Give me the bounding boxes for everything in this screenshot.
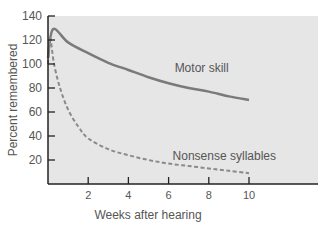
y-tick-label: 100 (22, 57, 42, 71)
x-tick-label: 10 (243, 189, 255, 201)
y-tick-label: 20 (29, 153, 43, 167)
x-tick-label: 6 (166, 189, 172, 201)
x-tick-label: 8 (206, 189, 212, 201)
nonsense-syllables-label: Nonsense syllables (173, 149, 276, 163)
y-tick-label: 120 (22, 33, 42, 47)
y-tick-label: 40 (29, 129, 43, 143)
y-tick-label: 80 (29, 81, 43, 95)
y-axis-label: Percent remembered (6, 44, 20, 157)
x-tick-label: 4 (125, 189, 131, 201)
x-tick-label: 2 (85, 189, 91, 201)
motor-skill-label: Motor skill (175, 61, 229, 75)
x-axis-label: Weeks after hearing (94, 208, 201, 222)
y-tick-label: 60 (29, 105, 43, 119)
y-tick-label: 140 (22, 9, 42, 23)
retention-chart: 20406080100120140246810Weeks after heari… (0, 0, 329, 227)
